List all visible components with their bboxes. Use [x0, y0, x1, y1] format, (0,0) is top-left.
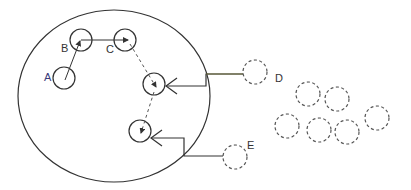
free-node [335, 120, 359, 144]
label-e: E [247, 140, 254, 151]
label-c: C [106, 44, 114, 55]
boundary-ellipse [18, 10, 210, 182]
diagram-stage: A B C D E [0, 0, 411, 190]
node-n5 [129, 120, 151, 142]
free-node [307, 118, 331, 142]
node-e [223, 145, 247, 169]
node-a [53, 67, 75, 89]
edge-d-n4 [166, 74, 243, 86]
free-node [325, 87, 349, 111]
label-d: D [275, 73, 283, 84]
node-d [243, 60, 267, 84]
free-node [296, 82, 320, 106]
node-n4 [143, 73, 165, 95]
edge-e-n5 [151, 138, 223, 156]
free-node [365, 106, 389, 130]
free-node [275, 114, 299, 138]
label-a: A [44, 72, 51, 83]
diagram-canvas [0, 0, 411, 190]
edge-n4-n5 [141, 92, 154, 133]
label-b: B [61, 43, 68, 54]
